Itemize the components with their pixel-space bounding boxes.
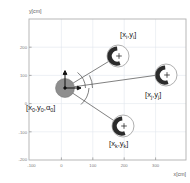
x-tick-label-0: -100 bbox=[27, 163, 36, 168]
y-tick-label-1: 100 bbox=[20, 73, 28, 78]
robot-landmark-diagram: 200 100 0 -100 -200 -100 0 100 200 300 y… bbox=[0, 0, 190, 183]
landmark-i-marker bbox=[107, 45, 129, 67]
plot-canvas: 200 100 0 -100 -200 -100 0 100 200 300 y… bbox=[0, 0, 190, 183]
robot-label-close: ] bbox=[53, 103, 55, 112]
landmark-k-label: [xk,yk] bbox=[109, 139, 128, 149]
plot-background bbox=[29, 19, 186, 160]
landmark-j-marker bbox=[155, 64, 177, 86]
x-tick-label-1: 0 bbox=[60, 163, 63, 168]
y-tick-label-0: 200 bbox=[20, 45, 28, 50]
x-tick-label-2: 100 bbox=[89, 163, 97, 168]
x-tick-label-3: 200 bbox=[121, 163, 129, 168]
x-axis-label: x[cm] bbox=[174, 171, 187, 177]
y-tick-label-3: -100 bbox=[19, 130, 28, 135]
landmark-i-label: [xi,yi] bbox=[120, 30, 136, 40]
y-tick-label-4: -200 bbox=[19, 157, 28, 162]
y-axis-label: y[cm] bbox=[29, 8, 42, 14]
landmark-k-marker bbox=[112, 115, 134, 137]
landmark-j-label: [xj,yj] bbox=[145, 90, 161, 100]
lj-close: ] bbox=[159, 90, 161, 99]
x-tick-label-4: 300 bbox=[152, 163, 160, 168]
li-close: ] bbox=[134, 30, 136, 39]
lk-close: ] bbox=[126, 139, 128, 148]
